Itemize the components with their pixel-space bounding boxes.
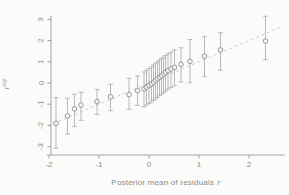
data-point bbox=[72, 107, 77, 112]
y-tick-label: 0 bbox=[37, 80, 46, 85]
y-tick-label: 1 bbox=[37, 59, 46, 64]
y-axis-label-variable: r bbox=[1, 86, 11, 89]
y-tick-label: 3 bbox=[37, 17, 46, 22]
data-point bbox=[218, 48, 223, 53]
data-point bbox=[188, 59, 193, 64]
x-axis-label: Posterior mean of residualsr bbox=[46, 177, 286, 187]
data-point bbox=[127, 92, 132, 97]
data-point bbox=[65, 114, 70, 119]
data-point bbox=[135, 88, 140, 93]
identity-dashed-line bbox=[48, 26, 284, 126]
data-point bbox=[95, 99, 100, 104]
x-tick-label: 0 bbox=[147, 160, 152, 169]
x-tick-label: 1 bbox=[197, 160, 202, 169]
y-tick-label: -3 bbox=[37, 142, 46, 150]
residual-scatter-figure: -2-1012-3-2-10123 Posterior mean of resi… bbox=[0, 0, 289, 195]
data-point bbox=[263, 39, 268, 44]
data-point bbox=[179, 62, 184, 67]
x-tick-label: -1 bbox=[95, 160, 103, 169]
data-point bbox=[202, 54, 207, 59]
y-axis-label: rrep bbox=[1, 48, 13, 120]
scatter-plot-canvas: -2-1012-3-2-10123 bbox=[0, 0, 289, 195]
y-tick-label: -1 bbox=[37, 100, 46, 108]
x-tick-label: -2 bbox=[45, 160, 53, 169]
data-point bbox=[79, 103, 84, 108]
x-tick-label: 2 bbox=[247, 160, 252, 169]
x-axis-label-text: Posterior mean of residuals bbox=[111, 178, 214, 187]
data-point bbox=[172, 65, 177, 70]
data-point bbox=[54, 121, 59, 126]
y-tick-label: 2 bbox=[37, 38, 46, 43]
data-point bbox=[108, 94, 113, 99]
y-axis-label-superscript: rep bbox=[1, 78, 7, 86]
x-axis-label-variable: r bbox=[217, 177, 221, 187]
y-tick-label: -2 bbox=[37, 121, 46, 129]
